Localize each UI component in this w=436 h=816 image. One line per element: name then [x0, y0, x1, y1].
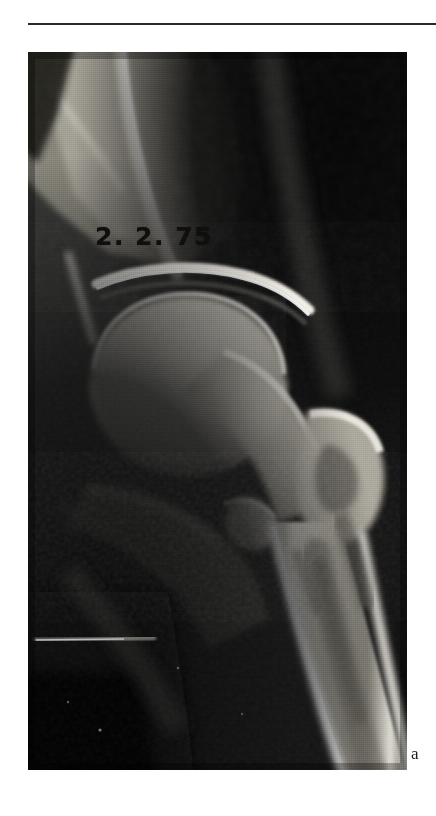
radiograph-date-stamp: 2. 2. 75 [95, 224, 213, 249]
radiograph-plate: 2. 2. 75 [28, 52, 407, 770]
top-divider-rule [28, 23, 436, 25]
figure-part-label: a [411, 745, 419, 762]
radiograph-image [28, 52, 407, 770]
